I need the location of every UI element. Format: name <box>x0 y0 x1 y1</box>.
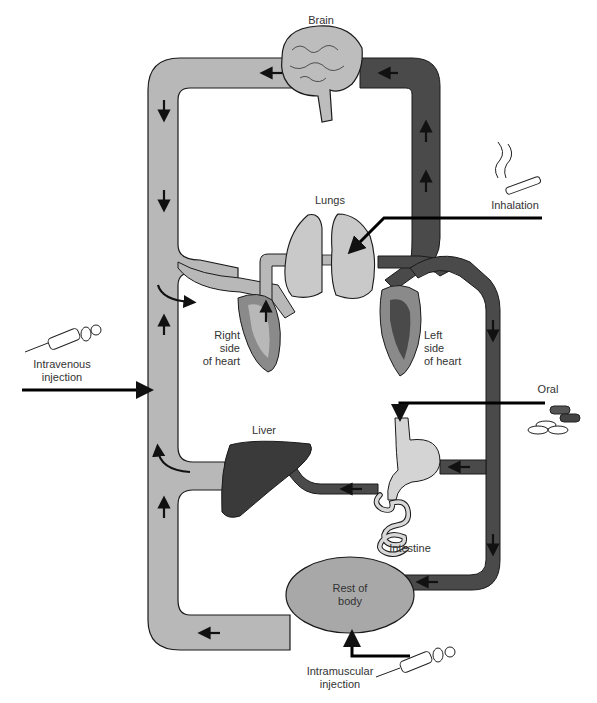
venous-vessels <box>148 58 340 650</box>
lungs-label: Lungs <box>305 194 355 207</box>
left-heart <box>380 285 421 376</box>
rest-of-body-label: Rest of body <box>315 582 385 608</box>
pills-icon <box>528 406 580 434</box>
inhalation-route-line <box>354 218 542 248</box>
inhalation-label: Inhalation <box>480 199 550 212</box>
intravenous-label: Intravenous injection <box>22 358 102 384</box>
left-heart-label: Left side of heart <box>424 329 474 368</box>
right-heart-label: Right side of heart <box>190 329 240 368</box>
circulation-diagram <box>0 0 597 703</box>
oral-label: Oral <box>528 383 568 396</box>
syringe-icon-intramuscular <box>376 647 455 677</box>
intramuscular-label: Intramuscular injection <box>295 665 385 691</box>
intestine-label: Intestine <box>380 542 440 555</box>
intramuscular-route-line <box>352 638 410 656</box>
brain <box>282 26 363 122</box>
liver-label: Liver <box>244 424 284 437</box>
right-heart <box>238 294 280 372</box>
oral-route-line <box>400 403 545 413</box>
cigarette-icon <box>495 142 541 195</box>
brain-label: Brain <box>296 14 346 27</box>
syringe-icon-intravenous <box>25 325 101 352</box>
stomach <box>388 418 440 500</box>
